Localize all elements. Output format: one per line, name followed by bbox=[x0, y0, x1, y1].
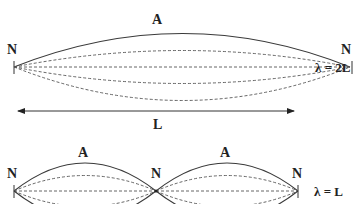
standing-wave-diagram: N N A λ = 2L L N N N A A λ = L bbox=[0, 0, 357, 204]
wave-dashed-upper-1 bbox=[14, 51, 350, 68]
antinode-label-2: A bbox=[220, 145, 231, 160]
node-label-right: N bbox=[341, 42, 351, 57]
fundamental-mode: N N A λ = 2L bbox=[7, 12, 352, 101]
loop2-envelope-upper bbox=[156, 163, 298, 191]
length-dimension: L bbox=[18, 111, 294, 132]
node-label-left: N bbox=[7, 42, 17, 57]
wave-dashed-lower-2 bbox=[14, 67, 350, 101]
loop1-envelope-lower bbox=[14, 191, 156, 204]
loop1-envelope-upper bbox=[14, 163, 156, 191]
loop2-envelope-lower bbox=[156, 191, 298, 204]
wavelength-label-second: λ = L bbox=[314, 184, 343, 199]
length-label: L bbox=[153, 117, 162, 132]
antinode-label-1: A bbox=[78, 145, 89, 160]
loop1-dashed-lower bbox=[14, 191, 156, 204]
loop1-dashed-upper bbox=[14, 176, 156, 192]
second-harmonic-mode: N N N A A λ = L bbox=[7, 145, 343, 204]
node-label-right-2: N bbox=[292, 166, 302, 181]
antinode-label: A bbox=[152, 12, 163, 27]
wave-envelope-upper bbox=[14, 34, 350, 68]
wavelength-label-fundamental: λ = 2L bbox=[315, 60, 351, 75]
loop2-dashed-upper bbox=[156, 176, 298, 192]
middle-node-dot bbox=[154, 189, 157, 192]
wave-dashed-lower-1 bbox=[14, 67, 350, 84]
loop2-dashed-lower bbox=[156, 191, 298, 204]
node-label-left-2: N bbox=[7, 166, 17, 181]
node-label-middle: N bbox=[151, 166, 161, 181]
